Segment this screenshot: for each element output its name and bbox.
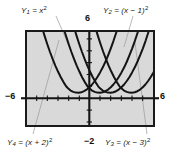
axis-label-y-max: 6 [85, 14, 90, 23]
label-y4: Y4 = (x + 2)2 [7, 137, 52, 147]
axis-label-x-min: −6 [5, 92, 15, 101]
axis-label-y-min: −2 [84, 137, 94, 146]
label-y2: Y2 = (x − 1)2 [103, 5, 148, 15]
label-y1: Y1 = x2 [21, 5, 47, 15]
label-y3: Y3 = (x − 3)2 [105, 137, 150, 147]
axis-label-x-max: 6 [160, 92, 165, 101]
